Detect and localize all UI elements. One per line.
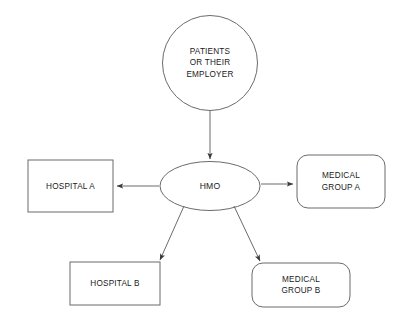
- hub-ellipse-shape: [160, 162, 260, 211]
- connector-hub-to-hospital-b: [160, 206, 184, 260]
- source-circle-shape: [163, 16, 258, 111]
- hospital-b-box-shape: [70, 262, 160, 305]
- diagram-canvas: [0, 0, 413, 323]
- group-a-box-shape: [297, 155, 385, 208]
- hospital-a-box-shape: [28, 160, 113, 212]
- hmo-relationship-diagram: PATIENTS OR THEIR EMPLOYER HMO HOSPITAL …: [0, 0, 413, 323]
- group-b-box-shape: [252, 263, 350, 307]
- connector-hub-to-group-b: [234, 206, 260, 261]
